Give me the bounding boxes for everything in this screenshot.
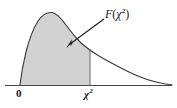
chi-square-distribution-figure: 0 χ2 F(χ2) bbox=[0, 0, 177, 108]
x-axis-tick-label-chi-square: χ2 bbox=[84, 88, 93, 100]
chi-exponent: 2 bbox=[89, 87, 93, 95]
cdf-close-paren: ) bbox=[125, 7, 129, 21]
cdf-callout-label: F(χ2) bbox=[105, 8, 129, 20]
shaded-area-region bbox=[20, 12, 90, 85]
x-axis-tick-label-zero: 0 bbox=[16, 88, 22, 99]
callout-arrow-shaft bbox=[70, 19, 104, 44]
